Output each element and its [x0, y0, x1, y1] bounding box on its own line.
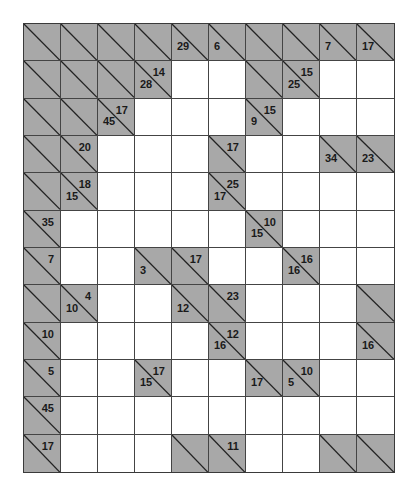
- entry-cell[interactable]: [135, 99, 172, 136]
- entry-cell[interactable]: [283, 173, 320, 210]
- entry-cell[interactable]: [135, 211, 172, 248]
- entry-cell[interactable]: [98, 248, 135, 285]
- entry-cell[interactable]: [320, 211, 357, 248]
- diagonal-divider-icon: [24, 360, 60, 396]
- entry-cell[interactable]: [320, 285, 357, 322]
- entry-cell[interactable]: [98, 397, 135, 434]
- entry-cell[interactable]: [357, 173, 394, 210]
- entry-cell[interactable]: [172, 211, 209, 248]
- entry-cell[interactable]: [283, 136, 320, 173]
- entry-cell[interactable]: [246, 397, 283, 434]
- entry-cell[interactable]: [246, 323, 283, 360]
- down-clue: 16: [288, 265, 300, 276]
- entry-cell[interactable]: [320, 397, 357, 434]
- entry-cell[interactable]: [246, 435, 283, 472]
- entry-cell[interactable]: [135, 435, 172, 472]
- entry-cell[interactable]: [172, 323, 209, 360]
- entry-cell[interactable]: [98, 173, 135, 210]
- across-clue: 35: [42, 217, 54, 228]
- entry-cell[interactable]: [98, 323, 135, 360]
- entry-cell[interactable]: [61, 211, 98, 248]
- entry-cell[interactable]: [98, 435, 135, 472]
- down-clue: 25: [288, 79, 300, 90]
- entry-cell[interactable]: [61, 360, 98, 397]
- down-clue: 17: [362, 41, 374, 52]
- entry-cell[interactable]: [61, 397, 98, 434]
- clue-cell: 34: [320, 136, 357, 173]
- entry-cell[interactable]: [283, 323, 320, 360]
- across-clue: 17: [116, 105, 128, 116]
- entry-cell[interactable]: [135, 323, 172, 360]
- entry-cell[interactable]: [246, 136, 283, 173]
- blocked-cell: [24, 61, 61, 98]
- diagonal-divider-icon: [61, 24, 97, 60]
- clue-cell: 1525: [283, 61, 320, 98]
- entry-cell[interactable]: [357, 61, 394, 98]
- entry-cell[interactable]: [172, 397, 209, 434]
- entry-cell[interactable]: [357, 99, 394, 136]
- entry-cell[interactable]: [172, 173, 209, 210]
- entry-cell[interactable]: [98, 211, 135, 248]
- blocked-cell: [61, 61, 98, 98]
- entry-cell[interactable]: [61, 435, 98, 472]
- diagonal-divider-icon: [135, 24, 171, 60]
- entry-cell[interactable]: [357, 397, 394, 434]
- blocked-cell: [98, 61, 135, 98]
- entry-cell[interactable]: [357, 360, 394, 397]
- entry-cell[interactable]: [209, 248, 246, 285]
- across-clue: 10: [42, 329, 54, 340]
- entry-cell[interactable]: [209, 61, 246, 98]
- blocked-cell: [24, 173, 61, 210]
- blocked-cell: [320, 435, 357, 472]
- entry-cell[interactable]: [135, 173, 172, 210]
- across-clue: 17: [190, 254, 202, 265]
- clue-cell: 45: [24, 397, 61, 434]
- across-clue: 14: [153, 67, 165, 78]
- entry-cell[interactable]: [246, 248, 283, 285]
- clue-cell: 410: [61, 285, 98, 322]
- entry-cell[interactable]: [283, 99, 320, 136]
- entry-cell[interactable]: [320, 248, 357, 285]
- diagonal-divider-icon: [246, 24, 282, 60]
- down-clue: 23: [362, 153, 374, 164]
- entry-cell[interactable]: [283, 285, 320, 322]
- blocked-cell: [172, 435, 209, 472]
- down-clue: 29: [177, 41, 189, 52]
- entry-cell[interactable]: [283, 435, 320, 472]
- entry-cell[interactable]: [283, 211, 320, 248]
- entry-cell[interactable]: [98, 360, 135, 397]
- entry-cell[interactable]: [61, 248, 98, 285]
- blocked-cell: [246, 24, 283, 61]
- entry-cell[interactable]: [320, 173, 357, 210]
- entry-cell[interactable]: [209, 397, 246, 434]
- entry-cell[interactable]: [246, 285, 283, 322]
- entry-cell[interactable]: [209, 211, 246, 248]
- entry-cell[interactable]: [357, 248, 394, 285]
- entry-cell[interactable]: [320, 61, 357, 98]
- entry-cell[interactable]: [320, 323, 357, 360]
- entry-cell[interactable]: [209, 99, 246, 136]
- entry-cell[interactable]: [283, 397, 320, 434]
- entry-cell[interactable]: [172, 360, 209, 397]
- entry-cell[interactable]: [172, 99, 209, 136]
- entry-cell[interactable]: [320, 99, 357, 136]
- entry-cell[interactable]: [98, 285, 135, 322]
- entry-cell[interactable]: [172, 136, 209, 173]
- entry-cell[interactable]: [320, 360, 357, 397]
- entry-cell[interactable]: [61, 323, 98, 360]
- entry-cell[interactable]: [135, 136, 172, 173]
- across-clue: 11: [227, 441, 239, 452]
- across-clue: 15: [264, 105, 276, 116]
- entry-cell[interactable]: [357, 211, 394, 248]
- entry-cell[interactable]: [135, 285, 172, 322]
- clue-cell: 1216: [209, 323, 246, 360]
- entry-cell[interactable]: [209, 360, 246, 397]
- clue-cell: 12: [172, 285, 209, 322]
- entry-cell[interactable]: [135, 397, 172, 434]
- down-clue: 16: [214, 340, 226, 351]
- entry-cell[interactable]: [98, 136, 135, 173]
- clue-cell: 1015: [246, 211, 283, 248]
- entry-cell[interactable]: [172, 61, 209, 98]
- across-clue: 7: [48, 254, 54, 265]
- entry-cell[interactable]: [246, 173, 283, 210]
